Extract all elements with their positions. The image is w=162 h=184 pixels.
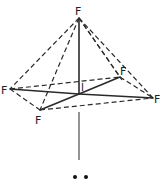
bond-i-left <box>10 89 79 94</box>
edge-top-left <box>10 18 79 89</box>
bond-i-right <box>79 94 153 98</box>
bonds <box>10 18 153 110</box>
atom-label-f-back: F <box>120 65 126 78</box>
lone-pair <box>73 175 88 179</box>
atom-label-f-top: F <box>75 5 81 18</box>
edge-front-right <box>40 98 153 110</box>
atom-label-f-left: F <box>1 84 7 97</box>
atom-label-f-front: F <box>35 114 41 127</box>
lone-pair-dot-1 <box>73 175 77 179</box>
edge-top-back-inner <box>79 18 122 80</box>
edge-left-front <box>10 89 40 110</box>
atom-label-i-center: I <box>81 82 84 93</box>
molecule-diagram: F F F F F I <box>0 0 162 184</box>
lone-pair-dot-2 <box>84 175 88 179</box>
edge-top-right <box>79 18 153 98</box>
atom-label-f-right: F <box>154 93 160 106</box>
